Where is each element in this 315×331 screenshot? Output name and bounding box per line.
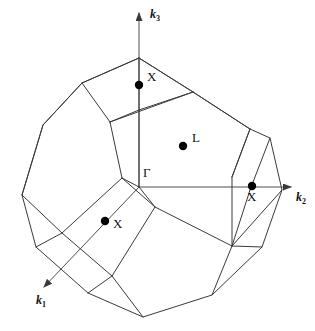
zone-internal-edge	[232, 129, 250, 177]
brillouin-zone-figure: Γ XLXX k1k2k3	[0, 0, 315, 331]
zone-internal-edge	[82, 58, 139, 83]
axis-label-subscript-k2: 2	[302, 197, 306, 206]
zone-internal-edge	[139, 187, 155, 207]
zone-internal-edge	[155, 207, 232, 246]
gamma-point-label: Γ	[143, 166, 151, 179]
axis-label-k3: k3	[150, 8, 160, 20]
axis-label-k1: k1	[36, 294, 46, 306]
zone-internal-edge	[88, 276, 112, 293]
axis-line-group	[44, 13, 291, 287]
brillouin-zone-drawing	[0, 0, 315, 331]
zone-internal-edge	[36, 233, 62, 247]
zone-internal-edge	[110, 122, 122, 178]
zone-silhouette	[22, 58, 282, 317]
zone-internal-edge	[139, 92, 193, 110]
symmetry-point-label-L-center: L	[192, 131, 200, 144]
symmetry-point-label-X-right: X	[247, 190, 256, 203]
zone-internal-edge	[212, 246, 232, 295]
symmetry-point-dot-L-center	[179, 142, 187, 150]
zone-internal-edge	[62, 233, 112, 276]
zone-internal-edge	[22, 125, 43, 195]
zone-internal-edge	[232, 190, 282, 246]
zone-internal-edge	[82, 83, 110, 122]
symmetry-point-dot-X-lower-left	[101, 217, 109, 225]
axis-line-k1	[44, 187, 139, 287]
axis-label-subscript-k1: 1	[42, 300, 46, 309]
symmetry-point-label-X-top: X	[147, 70, 156, 83]
zone-internal-edge	[232, 246, 262, 247]
symmetry-point-label-X-lower-left: X	[113, 217, 122, 230]
axis-label-subscript-k3: 3	[156, 14, 160, 23]
axis-label-k2: k2	[296, 191, 306, 203]
zone-internal-edge	[193, 92, 250, 129]
zone-internal-edge	[112, 276, 143, 317]
symmetry-point-dot-group	[101, 81, 256, 225]
zone-internal-edge	[22, 195, 62, 233]
zone-internal-edge	[43, 83, 82, 125]
zone-edge-group	[22, 58, 282, 317]
symmetry-point-dot-X-top	[135, 81, 143, 89]
